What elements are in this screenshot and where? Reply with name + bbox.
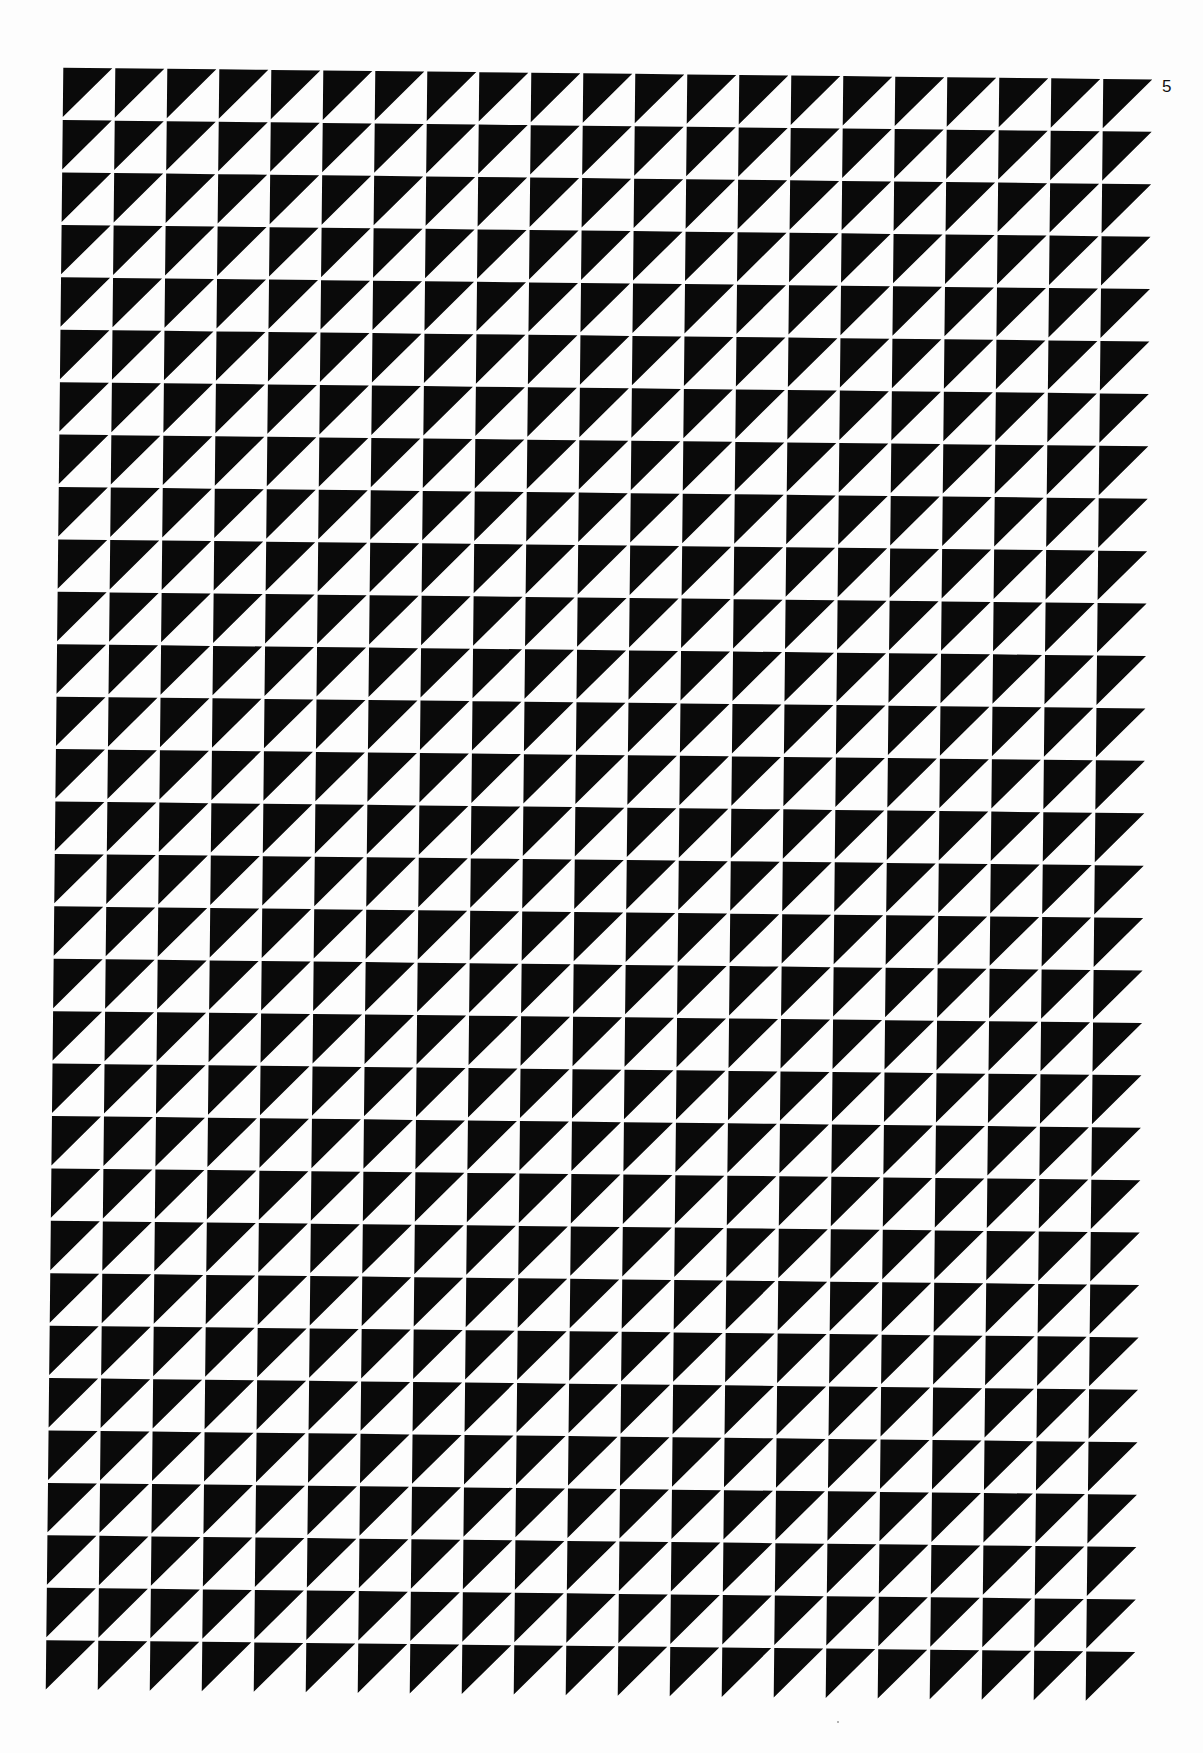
dust-speck	[837, 1721, 839, 1723]
scanned-page: 5	[0, 0, 1203, 1753]
page-number: 5	[1162, 78, 1171, 95]
triangle-grid-artwork	[44, 66, 1154, 1703]
triangle-grid-svg	[44, 66, 1154, 1703]
black-triangles	[46, 68, 1152, 1702]
